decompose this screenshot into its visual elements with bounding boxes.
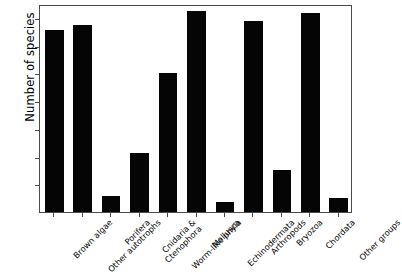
bar <box>216 202 235 212</box>
x-tick-mark <box>281 213 282 217</box>
x-tick-mark <box>82 213 83 217</box>
x-tick-label: Other groups <box>358 218 402 262</box>
x-tick-mark <box>110 213 111 217</box>
x-tick-mark <box>338 213 339 217</box>
bar <box>102 196 121 212</box>
bar <box>244 21 263 212</box>
bar <box>301 13 320 212</box>
bar <box>159 73 178 212</box>
x-tick-mark <box>196 213 197 217</box>
x-tick-mark <box>167 213 168 217</box>
x-tick-label: Mollusca <box>210 218 241 249</box>
bar <box>45 30 64 212</box>
x-tick-mark <box>139 213 140 217</box>
x-tick-label: Chordata <box>324 218 357 251</box>
x-tick-mark <box>252 213 253 217</box>
bar <box>73 25 92 212</box>
x-tick-label: Brown algae <box>72 218 114 260</box>
plot-area <box>39 5 352 213</box>
bar <box>329 198 348 212</box>
bar <box>130 153 149 212</box>
bar <box>273 170 292 212</box>
x-tick-mark <box>53 213 54 217</box>
bar <box>187 11 206 212</box>
x-tick-mark <box>309 213 310 217</box>
x-tick-mark <box>224 213 225 217</box>
